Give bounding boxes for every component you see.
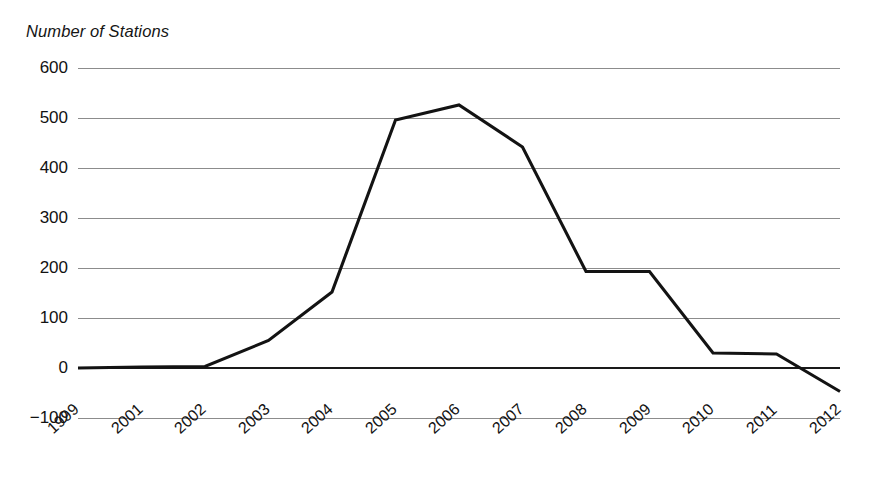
y-axis-tick-label: 300 xyxy=(0,208,68,228)
y-axis-tick-label: 200 xyxy=(0,258,68,278)
chart-figure: Number of Stations 6005004003002001000−1… xyxy=(0,0,878,499)
y-axis-tick-label: 500 xyxy=(0,108,68,128)
y-axis-tick-label: 400 xyxy=(0,158,68,178)
series-line-chart xyxy=(78,68,840,418)
y-axis-tick-label: 100 xyxy=(0,308,68,328)
x-axis-tick-label: 1999 xyxy=(44,400,82,437)
plot-area xyxy=(78,68,840,418)
y-axis-tick-label: 0 xyxy=(0,358,68,378)
y-axis-tick-label: 600 xyxy=(0,58,68,78)
chart-title: Number of Stations xyxy=(26,22,169,41)
series-line-path xyxy=(78,105,840,392)
